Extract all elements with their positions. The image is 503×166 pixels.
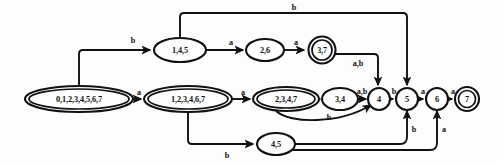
state-node-0-1-2-3-4-5-6-7[interactable]: 0,1,2,3,4,5,6,7 (25, 86, 133, 112)
edge-label-n5-n6: a (421, 87, 425, 96)
edge-n0-n8 (79, 50, 150, 86)
state-node-1-4-5[interactable]: 1,4,5 (154, 38, 206, 62)
edge-label-n3-n4: a,b (357, 87, 368, 96)
edge-label-n1-n11: b (225, 151, 230, 160)
edge-label-n11-n5: b (412, 125, 417, 134)
edge-label-n0-n8: b (131, 36, 136, 45)
edge-label-n1-n2: a (241, 88, 245, 97)
automaton-svg: b a a a a,b b a a a (0, 0, 503, 166)
state-label: 0,1,2,3,4,5,6,7 (56, 95, 102, 104)
edge-label-n0-n1: a (137, 88, 141, 97)
nodes-layer: 0,1,2,3,4,5,6,7 1,2,3,4,6,7 2,3,4,7 3,4 (25, 37, 479, 156)
state-node-3-4[interactable]: 3,4 (322, 88, 358, 110)
state-label: 7 (465, 95, 469, 104)
state-label: 4 (377, 95, 381, 104)
state-node-7[interactable]: 7 (455, 87, 479, 111)
edge-label-n2-n4: b (327, 113, 332, 122)
edge-label-n11-n6: a (442, 125, 446, 134)
automaton-diagram: b a a a a,b b a a a (0, 0, 503, 166)
state-label: 4,5 (271, 140, 281, 149)
state-label: 2,6 (260, 46, 270, 55)
state-node-3-7[interactable]: 3,7 (309, 37, 336, 64)
edge-label-n9-n10: a (294, 38, 298, 47)
state-node-2-6[interactable]: 2,6 (246, 39, 284, 61)
edge-n11-n5 (295, 111, 407, 144)
state-label: 3,4 (335, 95, 345, 104)
state-label: 3,7 (317, 46, 327, 55)
state-node-4-5[interactable]: 4,5 (257, 133, 295, 155)
edge-label-n6-n7: a (451, 87, 455, 96)
state-node-5[interactable]: 5 (396, 88, 418, 110)
state-label: 1,4,5 (172, 46, 188, 55)
state-node-4[interactable]: 4 (368, 88, 390, 110)
state-label: 1,2,3,4,6,7 (171, 95, 205, 104)
state-node-6[interactable]: 6 (426, 88, 448, 110)
edge-label-n4-n5: b (392, 87, 397, 96)
edge-label-n8-n5: b (292, 3, 297, 12)
state-node-2-3-4-7[interactable]: 2,3,4,7 (253, 87, 319, 111)
state-label: 5 (405, 95, 409, 104)
edge-label-n10-n4: a,b (353, 59, 364, 68)
state-label: 2,3,4,7 (275, 95, 297, 104)
edge-label-n8-n9: a (229, 38, 233, 47)
edge-n8-n5 (180, 13, 407, 85)
edge-n1-n11 (188, 112, 253, 144)
state-node-1-2-3-4-6-7[interactable]: 1,2,3,4,6,7 (144, 86, 232, 112)
state-label: 6 (435, 95, 439, 104)
